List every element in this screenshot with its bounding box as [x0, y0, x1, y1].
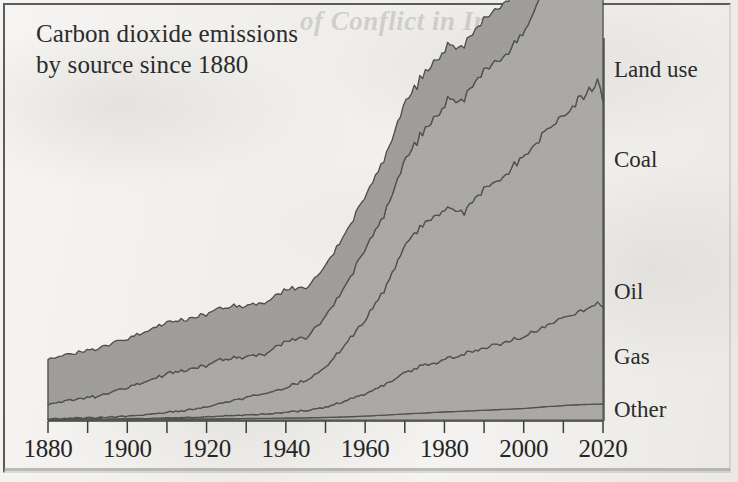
legend-label-oil: Oil — [614, 280, 643, 303]
x-tick-label-1900: 1900 — [103, 436, 152, 461]
x-tick-label-2000: 2000 — [499, 436, 548, 461]
x-tick-label-1920: 1920 — [182, 436, 231, 461]
x-tick-label-1980: 1980 — [420, 436, 469, 461]
x-tick-label-2020: 2020 — [579, 436, 628, 461]
legend-label-coal: Coal — [614, 148, 657, 171]
area-band-grain — [48, 0, 603, 420]
legend-label-other: Other — [614, 398, 666, 421]
x-tick-label-1880: 1880 — [24, 436, 73, 461]
x-tick-label-1940: 1940 — [261, 436, 310, 461]
figure-container: of Conflict in Iraq Carbon dioxide emiss… — [0, 0, 738, 482]
legend-label-gas: Gas — [614, 345, 650, 368]
x-tick-label-1960: 1960 — [341, 436, 390, 461]
legend-label-land-use: Land use — [614, 58, 698, 81]
